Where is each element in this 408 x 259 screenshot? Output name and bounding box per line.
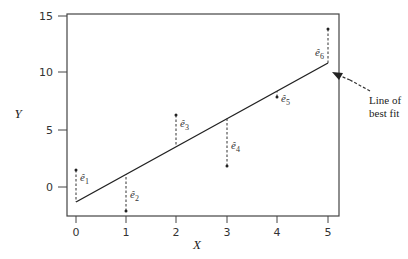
x-tick-4: 4 (274, 226, 281, 239)
residual-plot: 15 10 5 0 0 1 2 3 4 5 X Y (0, 0, 408, 259)
x-tick-2: 2 (173, 226, 180, 239)
x-tick-1: 1 (123, 226, 130, 239)
residual-label-4: ê4 (231, 139, 240, 154)
point-5 (276, 96, 279, 99)
point-1 (75, 169, 78, 172)
x-axis-ticks: 0 1 2 3 4 5 (73, 216, 332, 239)
x-tick-5: 5 (325, 226, 332, 239)
plot-frame (67, 14, 339, 216)
residual-label-1: ê1 (80, 171, 89, 186)
annotation-line-1: Line of (369, 94, 401, 106)
residual-label-6: ê6 (315, 46, 324, 61)
x-axis-label: X (192, 237, 202, 252)
arrowhead-icon (332, 72, 343, 80)
x-tick-3: 3 (224, 226, 231, 239)
y-tick-5: 5 (46, 124, 53, 137)
observation-points (75, 28, 330, 213)
y-tick-10: 10 (39, 66, 53, 79)
annotation-line-2: best fit (369, 107, 399, 119)
residual-label-3: ê3 (180, 117, 189, 132)
point-4 (226, 165, 229, 168)
point-3 (175, 114, 178, 117)
annotation-arrow (332, 72, 370, 91)
y-tick-15: 15 (39, 10, 53, 23)
residuals (76, 29, 328, 211)
y-axis-ticks: 15 10 5 0 (39, 10, 67, 194)
residual-label-2: ê2 (130, 188, 139, 203)
residual-label-5: ê5 (281, 92, 290, 107)
point-6 (327, 28, 330, 31)
y-tick-0: 0 (46, 181, 53, 194)
x-tick-0: 0 (73, 226, 80, 239)
y-axis-label: Y (14, 106, 23, 121)
point-2 (125, 210, 128, 213)
best-fit-line (76, 63, 328, 202)
